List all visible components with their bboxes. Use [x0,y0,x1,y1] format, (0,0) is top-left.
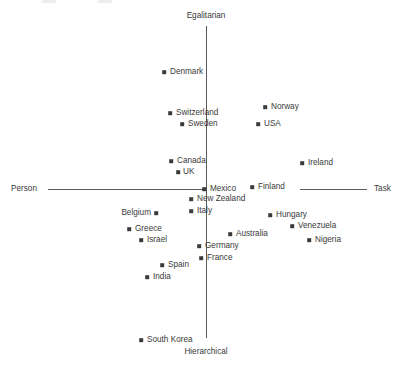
data-point-marker [290,224,294,228]
data-point-label: Israel [147,235,167,245]
axis-label-egalitarian: Egalitarian [187,11,226,21]
data-point-label: France [207,253,232,263]
data-point-marker [154,211,158,215]
data-point-marker [127,227,131,231]
data-point-label: India [153,272,171,282]
data-point-label: Sweden [188,119,218,129]
data-point-marker [160,263,164,267]
data-point-marker [307,238,311,242]
data-point-marker [168,111,172,115]
axis-label-task: Task [374,184,391,194]
data-point-marker [189,209,193,213]
data-point-marker [169,159,173,163]
data-point-marker [268,213,272,217]
data-point-label: Spain [168,260,189,270]
data-point-label: Norway [271,102,299,112]
data-point-marker [250,185,254,189]
clipped-artifact [98,0,112,3]
vertical-axis-line [206,26,207,338]
data-point-marker [300,161,304,165]
data-point-label: Italy [197,206,212,216]
data-point-label: Germany [205,241,239,251]
data-point-marker [197,244,201,248]
axis-label-person: Person [11,184,37,194]
data-point-label: Venezuela [298,221,336,231]
data-point-marker [199,256,203,260]
data-point-label: Canada [177,156,206,166]
data-point-marker [162,70,166,74]
data-point-marker [176,170,180,174]
data-point-label: New Zealand [197,194,245,204]
data-point-marker [263,105,267,109]
data-point-label: Finland [258,182,285,192]
clipped-artifact [42,0,56,3]
data-point-label: UK [183,167,194,177]
data-point-label: Switzerland [176,108,218,118]
data-point-label: Denmark [170,67,203,77]
data-point-label: Nigeria [315,235,341,245]
data-point-marker [228,232,232,236]
data-point-label: USA [264,119,281,129]
data-point-marker [139,238,143,242]
data-point-marker [189,197,193,201]
axis-label-hierarchical: Hierarchical [184,347,227,357]
data-point-label: Greece [135,224,162,234]
data-point-marker [180,122,184,126]
data-point-label: South Korea [147,335,193,345]
data-point-marker [202,187,206,191]
horizontal-axis-line-right [300,189,367,190]
data-point-label: Mexico [210,184,236,194]
horizontal-axis-line-left [48,189,203,190]
data-point-marker [145,275,149,279]
data-point-marker [139,338,143,342]
data-point-label: Ireland [308,158,333,168]
data-point-label: Australia [236,229,268,239]
data-point-label: Hungary [276,210,307,220]
scatter-plot-canvas: Egalitarian Hierarchical Person Task Den… [0,0,403,367]
data-point-marker [256,122,260,126]
data-point-label: Belgium [121,208,151,218]
